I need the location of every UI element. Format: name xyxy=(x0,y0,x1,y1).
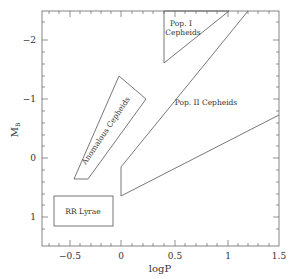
x-tick-label: 0.5 xyxy=(168,251,183,261)
y-tick-label: 0 xyxy=(30,153,36,163)
y-tick-label: −1 xyxy=(23,94,36,104)
y-axis-title: MB xyxy=(9,122,21,137)
x-tick-label: 0 xyxy=(118,251,124,261)
pop1-label-line2: Cepheids xyxy=(165,28,200,37)
rrlyrae-label: RR Lyrae xyxy=(65,207,101,216)
svg-text:MB: MB xyxy=(9,122,21,137)
hr-instability-diagram: −0.5 0 0.5 1 1.5 −2 −1 0 1 logP MB Pop. … xyxy=(0,0,297,279)
x-tick-label: 1 xyxy=(225,251,231,261)
y-tick-label: −2 xyxy=(23,35,36,45)
x-tick-label: 1.5 xyxy=(272,251,287,261)
y-axis-ticks xyxy=(42,22,279,229)
y-tick-label: 1 xyxy=(30,212,36,222)
pop1-label-line1: Pop. I xyxy=(170,19,192,28)
x-tick-label: −0.5 xyxy=(59,251,81,261)
x-axis-title: logP xyxy=(149,263,172,274)
pop2-label: Pop. II Cepheids xyxy=(175,98,238,107)
